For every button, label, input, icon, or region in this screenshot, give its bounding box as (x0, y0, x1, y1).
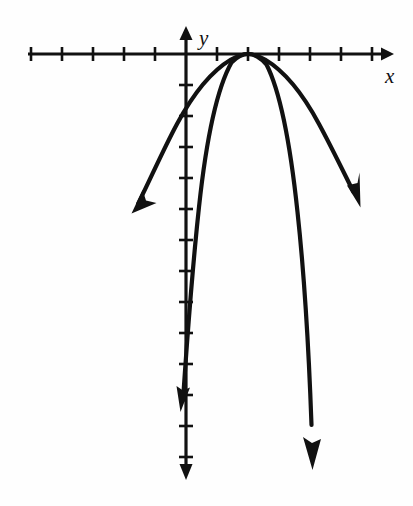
narrow-parabola-path (183, 54, 312, 425)
x-axis-label: x (384, 64, 395, 88)
y-axis-label: y (197, 26, 209, 50)
y-axis-arrow-down-icon (180, 464, 193, 480)
wide-parabola-path (138, 54, 354, 204)
narrow-parabola-right-arrow-icon (303, 437, 321, 470)
wide-parabola-right-arrow-icon (347, 173, 361, 208)
wide-parabola (132, 54, 361, 214)
parabola-figure: y x (0, 0, 413, 506)
axes-group (28, 26, 394, 480)
narrow-parabola (177, 54, 322, 470)
graph-canvas: y x (0, 0, 413, 506)
y-axis-arrow-up-icon (180, 26, 193, 40)
x-axis-arrow-right-icon (381, 48, 394, 61)
